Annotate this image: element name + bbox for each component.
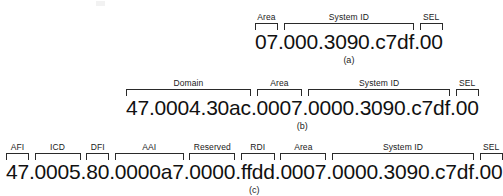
segment-bracket-icon [86, 153, 109, 160]
segment-value: 07 [255, 30, 278, 53]
address-text-a: 07.000.3090.c7df.00 [255, 30, 443, 54]
segment-label: System ID [329, 12, 369, 23]
segment-value: 0000 [189, 160, 235, 183]
segment-bracket-icon [6, 153, 29, 160]
segment-value: ffdd [241, 160, 275, 183]
segment-head-system-id: System ID [308, 78, 450, 96]
caption-c: (c) [6, 185, 503, 196]
segment-value: 00 [480, 160, 503, 183]
segment-label: AAI [142, 142, 156, 153]
segment-head-area: Area [280, 142, 326, 160]
segment-bracket-icon [189, 153, 235, 160]
segment-head-system-id: System ID [332, 142, 474, 160]
segment-bracket-icon [126, 89, 251, 96]
segment-label: Reserved [194, 142, 231, 153]
segment-label: System ID [383, 142, 423, 153]
segment-value: 47.0004.30ac [126, 96, 251, 119]
segment-label: Area [294, 142, 312, 153]
segment-label: ICD [50, 142, 65, 153]
segment-bracket-icon [35, 153, 81, 160]
segment-head-sel: SEL [420, 12, 443, 30]
segment-bracket-icon [241, 153, 275, 160]
address-row-a: AreaSystem IDSEL 07.000.3090.c7df.00 (a) [255, 6, 443, 66]
segment-head-area: Area [257, 78, 303, 96]
segment-label: Area [270, 78, 288, 89]
segment-head-area: Area [255, 12, 278, 30]
segment-label: SEL [423, 12, 439, 23]
segment-label: SEL [483, 142, 499, 153]
bracket-row-c: AFIICDDFIAAIReservedRDIAreaSystem IDSEL [6, 136, 503, 160]
segment-label: DFI [91, 142, 105, 153]
segment-value: 0000a7 [115, 160, 184, 183]
segment-label: SEL [459, 78, 475, 89]
segment-value: 0005 [35, 160, 81, 183]
segment-value: 47 [6, 160, 29, 183]
segment-bracket-icon [257, 89, 303, 96]
segment-value: 0007 [280, 160, 326, 183]
bracket-row-a: AreaSystem IDSEL [255, 6, 443, 30]
segment-bracket-icon [308, 89, 450, 96]
segment-bracket-icon [332, 153, 474, 160]
address-row-c: AFIICDDFIAAIReservedRDIAreaSystem IDSEL … [6, 136, 503, 196]
caption-a: (a) [255, 55, 443, 66]
address-text-c: 47.0005.80.0000a7.0000.ffdd.0007.0000.30… [6, 160, 503, 184]
segment-label: AFI [11, 142, 25, 153]
segment-value: 0000.3090.c7df [332, 160, 474, 183]
segment-value: 00 [456, 96, 479, 119]
address-row-b: DomainAreaSystem IDSEL 47.0004.30ac.0007… [126, 72, 479, 132]
segment-head-system-id: System ID [284, 12, 415, 30]
segment-head-sel: SEL [480, 142, 503, 160]
segment-label: Area [257, 12, 275, 23]
segment-label: Domain [174, 78, 204, 89]
segment-head-aai: AAI [115, 142, 184, 160]
segment-bracket-icon [284, 23, 415, 30]
segment-bracket-icon [280, 153, 326, 160]
segment-value: 0007 [257, 96, 303, 119]
segment-value: 80 [86, 160, 109, 183]
segment-head-domain: Domain [126, 78, 251, 96]
address-text-b: 47.0004.30ac.0007.0000.3090.c7df.00 [126, 96, 479, 120]
segment-value: 0000.3090.c7df [308, 96, 450, 119]
segment-bracket-icon [255, 23, 278, 30]
segment-bracket-icon [420, 23, 443, 30]
caption-b: (b) [126, 121, 479, 132]
bracket-row-b: DomainAreaSystem IDSEL [126, 72, 479, 96]
scan-artifact [96, 1, 105, 6]
segment-head-dfi: DFI [86, 142, 109, 160]
segment-head-rdi: RDI [241, 142, 275, 160]
segment-bracket-icon [480, 153, 503, 160]
segment-bracket-icon [115, 153, 184, 160]
segment-value: 00 [420, 30, 443, 53]
segment-bracket-icon [456, 89, 479, 96]
segment-value: 000.3090.c7df [284, 30, 415, 53]
segment-label: RDI [250, 142, 265, 153]
segment-head-sel: SEL [456, 78, 479, 96]
segment-head-icd: ICD [35, 142, 81, 160]
segment-head-afi: AFI [6, 142, 29, 160]
segment-head-reserved: Reserved [189, 142, 235, 160]
segment-label: System ID [359, 78, 399, 89]
